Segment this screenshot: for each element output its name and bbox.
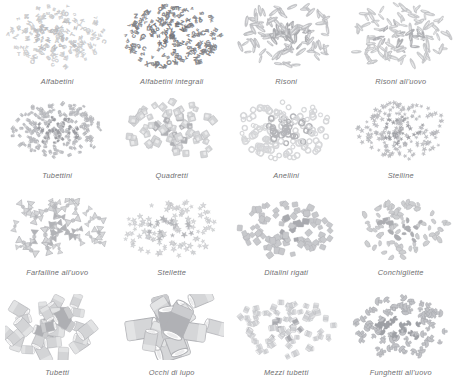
svg-text:O: O	[138, 19, 143, 23]
pasta-cell: Tubetti	[0, 292, 115, 386]
svg-text:L: L	[126, 23, 131, 26]
svg-text:V: V	[123, 33, 129, 38]
pasta-illustration	[120, 198, 224, 260]
pasta-cell: Stelline	[344, 96, 458, 194]
pasta-cell: Ditalini rigati	[229, 194, 344, 292]
pasta-caption: Funghetti all'uovo	[370, 369, 432, 376]
svg-text:A: A	[150, 55, 154, 61]
pasta-cell: Farfalline all'uovo	[0, 194, 115, 292]
pasta-caption: Quadretti	[155, 172, 188, 179]
svg-text:L: L	[143, 21, 148, 25]
pasta-illustration	[349, 198, 453, 260]
pasta-caption: Tubettini	[42, 172, 72, 179]
pasta-photo	[234, 98, 338, 162]
svg-text:F: F	[41, 39, 44, 44]
pasta-caption: Alfabetini integrali	[140, 78, 203, 85]
svg-text:P: P	[149, 62, 155, 66]
pasta-illustration	[5, 198, 109, 260]
pasta-cell: Quadretti	[115, 96, 230, 194]
pasta-illustration	[349, 2, 453, 70]
svg-text:H: H	[73, 24, 78, 31]
pasta-illustration	[349, 294, 453, 360]
pasta-caption: Anellini	[273, 172, 299, 179]
pasta-cell: Occhi di lupo	[115, 292, 230, 386]
pasta-photo	[349, 2, 453, 70]
svg-text:A: A	[185, 33, 190, 37]
pasta-photo	[120, 98, 224, 162]
pasta-caption: Ditalini rigati	[264, 269, 308, 276]
pasta-illustration	[234, 198, 338, 260]
pasta-photo	[5, 294, 109, 360]
pasta-photo	[234, 2, 338, 70]
pasta-photo	[349, 294, 453, 360]
pasta-caption: Conchigliette	[378, 269, 424, 276]
svg-text:F: F	[124, 38, 130, 45]
pasta-cell: Risoni	[229, 0, 344, 96]
pasta-photo	[349, 98, 453, 162]
svg-text:T: T	[69, 31, 77, 38]
svg-text:5: 5	[198, 12, 204, 16]
pasta-illustration	[349, 98, 453, 162]
svg-text:B: B	[47, 3, 52, 9]
pasta-illustration	[234, 294, 338, 360]
pasta-caption: Farfalline all'uovo	[26, 269, 88, 276]
svg-text:R: R	[84, 56, 88, 62]
pasta-cell: Funghetti all'uovo	[344, 292, 458, 386]
svg-text:K: K	[79, 18, 86, 24]
svg-text:2: 2	[100, 27, 107, 34]
pasta-cell: Risoni all'uovo	[344, 0, 458, 96]
svg-text:M: M	[62, 63, 70, 70]
pasta-photo	[234, 294, 338, 360]
pasta-illustration	[234, 2, 338, 70]
svg-text:T: T	[18, 51, 22, 57]
svg-text:5: 5	[15, 32, 21, 38]
svg-text:V: V	[190, 6, 194, 11]
pasta-caption: Stelline	[388, 172, 414, 179]
pasta-illustration	[120, 294, 224, 360]
pasta-photo	[120, 198, 224, 260]
pasta-illustration	[234, 98, 338, 162]
pasta-photo	[349, 198, 453, 260]
pasta-illustration: OV5HHHOHC5TNARFOB2SVN25CENHVEEHE8H5LPXTS…	[5, 2, 109, 70]
pasta-photo	[5, 98, 109, 162]
pasta-photo: OV5HHHOHC5TNARFOB2SVN25CENHVEEHE8H5LPXTS…	[5, 2, 109, 70]
pasta-plate-sheet: OV5HHHOHC5TNARFOB2SVN25CENHVEEHE8H5LPXTS…	[0, 0, 458, 386]
pasta-caption: Tubetti	[45, 369, 69, 376]
pasta-cell: Anellini	[229, 96, 344, 194]
svg-text:Z: Z	[16, 17, 22, 22]
pasta-caption: Stellette	[157, 269, 186, 276]
pasta-illustration	[5, 98, 109, 162]
pasta-cell: Tubettini	[0, 96, 115, 194]
pasta-cell: 5FS2AKZSAA5RVGZNHFXAGXX5O5XOKELHPEKN5K5P…	[115, 0, 230, 96]
pasta-caption: Alfabetini	[41, 78, 74, 85]
svg-text:L: L	[24, 38, 29, 41]
svg-text:M: M	[174, 23, 180, 28]
pasta-caption: Mezzi tubetti	[264, 369, 309, 376]
svg-text:M: M	[92, 18, 100, 27]
pasta-grid: OV5HHHOHC5TNARFOB2SVN25CENHVEEHE8H5LPXTS…	[0, 0, 458, 386]
pasta-illustration	[120, 98, 224, 162]
pasta-caption: Risoni	[275, 78, 297, 85]
pasta-cell: OV5HHHOHC5TNARFOB2SVN25CENHVEEHE8H5LPXTS…	[0, 0, 115, 96]
pasta-photo: 5FS2AKZSAA5RVGZNHFXAGXX5O5XOKELHPEKN5K5P…	[120, 2, 224, 70]
pasta-caption: Occhi di lupo	[149, 369, 195, 376]
pasta-caption: Risoni all'uovo	[375, 78, 426, 85]
pasta-illustration	[5, 294, 109, 360]
pasta-photo	[5, 198, 109, 260]
pasta-cell: Conchigliette	[344, 194, 458, 292]
pasta-cell: Mezzi tubetti	[229, 292, 344, 386]
svg-text:T: T	[65, 4, 70, 8]
svg-text:2: 2	[139, 52, 145, 56]
svg-text:P: P	[171, 43, 177, 47]
svg-text:M: M	[136, 56, 143, 63]
pasta-illustration: 5FS2AKZSAA5RVGZNHFXAGXX5O5XOKELHPEKN5K5P…	[120, 2, 224, 70]
pasta-photo	[120, 294, 224, 360]
pasta-photo	[234, 198, 338, 260]
pasta-cell: Stellette	[115, 194, 230, 292]
